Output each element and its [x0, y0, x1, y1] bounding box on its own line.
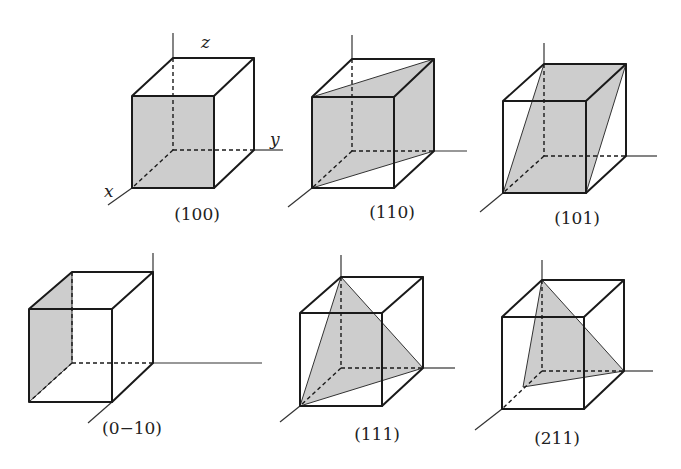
axis-label-y: y [269, 129, 280, 149]
caption-101: (101) [554, 208, 600, 228]
cube-110: (110) [288, 35, 467, 222]
axis-label-z: z [200, 32, 211, 52]
caption-111: (111) [354, 424, 400, 444]
cube-101: (101) [480, 43, 657, 228]
cube-111: (111) [280, 255, 455, 444]
cube-100: z y x (100) [104, 32, 283, 224]
caption-110: (110) [369, 202, 415, 222]
cube-211: (211) [475, 260, 653, 448]
axis-label-x: x [104, 181, 114, 201]
caption-0-10: (0−10) [102, 418, 162, 438]
cube-0-10: (0−10) [29, 253, 262, 438]
caption-100: (100) [174, 204, 220, 224]
caption-211: (211) [534, 428, 580, 448]
miller-planes-figure: z y x (100) (110) (101) [0, 0, 681, 469]
